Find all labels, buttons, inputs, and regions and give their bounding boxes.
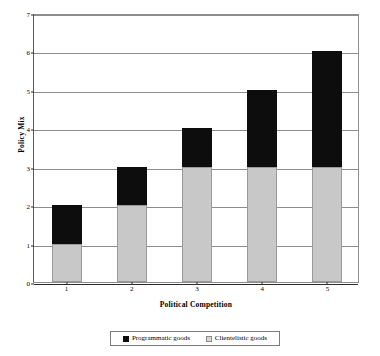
y-tick-mark [31, 284, 34, 285]
bar-segment-clientelistic [52, 244, 82, 282]
y-tick-mark [31, 130, 34, 131]
y-tick-mark [31, 53, 34, 54]
x-tick-label: 4 [260, 286, 264, 293]
bar-segment-programmatic [247, 90, 277, 167]
y-tick-label: 1 [27, 242, 31, 249]
legend-label-clientelistic: Clientelistic goods [215, 335, 267, 342]
y-tick-label: 6 [27, 50, 31, 57]
y-tick-label: 5 [27, 88, 31, 95]
bar-group [117, 13, 147, 282]
y-tick-mark [31, 91, 34, 92]
bar-segment-clientelistic [247, 167, 277, 282]
bar-group [182, 13, 212, 282]
x-tick-label: 5 [326, 286, 330, 293]
x-axis-title: Political Competition [33, 300, 359, 309]
y-tick-label: 4 [27, 127, 31, 134]
y-axis-title: Policy Mix [17, 90, 26, 180]
x-tick-label: 3 [195, 286, 199, 293]
bar-segment-programmatic [312, 51, 342, 166]
legend-swatch-programmatic-icon [123, 336, 129, 342]
bar-segment-clientelistic [182, 167, 212, 282]
bar-segment-clientelistic [312, 167, 342, 282]
y-tick-mark [31, 207, 34, 208]
chart-legend: Programmatic goods Clientelistic goods [110, 331, 280, 346]
y-tick-label: 0 [27, 281, 31, 288]
legend-entry-clientelistic: Clientelistic goods [206, 335, 267, 342]
stacked-bar-chart: Policy Mix 01234567 12345 Political Comp… [0, 0, 380, 356]
legend-entry-programmatic: Programmatic goods [123, 335, 190, 342]
x-tick-label: 2 [130, 286, 134, 293]
legend-label-programmatic: Programmatic goods [132, 335, 190, 342]
bar-group [247, 13, 277, 282]
bar-group [312, 13, 342, 282]
x-tick-label: 1 [65, 286, 69, 293]
bar-segment-programmatic [52, 205, 82, 243]
bar-segment-programmatic [182, 128, 212, 166]
y-axis-line [33, 15, 34, 282]
plot-area: 01234567 12345 [33, 14, 359, 283]
y-tick-mark [31, 15, 34, 16]
bar-group [52, 13, 82, 282]
legend-swatch-clientelistic-icon [206, 336, 212, 342]
y-tick-label: 7 [27, 12, 31, 19]
y-tick-mark [31, 168, 34, 169]
y-tick-mark [31, 245, 34, 246]
bar-segment-clientelistic [117, 205, 147, 282]
y-tick-label: 3 [27, 165, 31, 172]
y-tick-label: 2 [27, 204, 31, 211]
bar-segment-programmatic [117, 167, 147, 205]
